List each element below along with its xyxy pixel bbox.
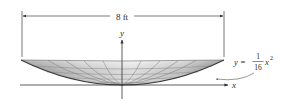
equation-pointer-arrow bbox=[216, 73, 254, 80]
equation-numerator: 1 bbox=[256, 52, 260, 61]
x-axis-label: x bbox=[231, 80, 236, 90]
equation-label: y = 1 16 x 2 bbox=[233, 52, 273, 72]
equation-variable: x bbox=[264, 57, 269, 67]
y-axis-label: y bbox=[119, 28, 124, 38]
equation-denominator: 16 bbox=[254, 63, 262, 72]
equation-lhs: y = bbox=[233, 57, 246, 67]
equation-exponent: 2 bbox=[270, 55, 273, 61]
dimension-label: 8 ft bbox=[116, 12, 129, 22]
paraboloid-dish-diagram: 8 ft x y y = 1 16 x 2 bbox=[0, 0, 285, 105]
paraboloid-surface bbox=[21, 60, 224, 85]
